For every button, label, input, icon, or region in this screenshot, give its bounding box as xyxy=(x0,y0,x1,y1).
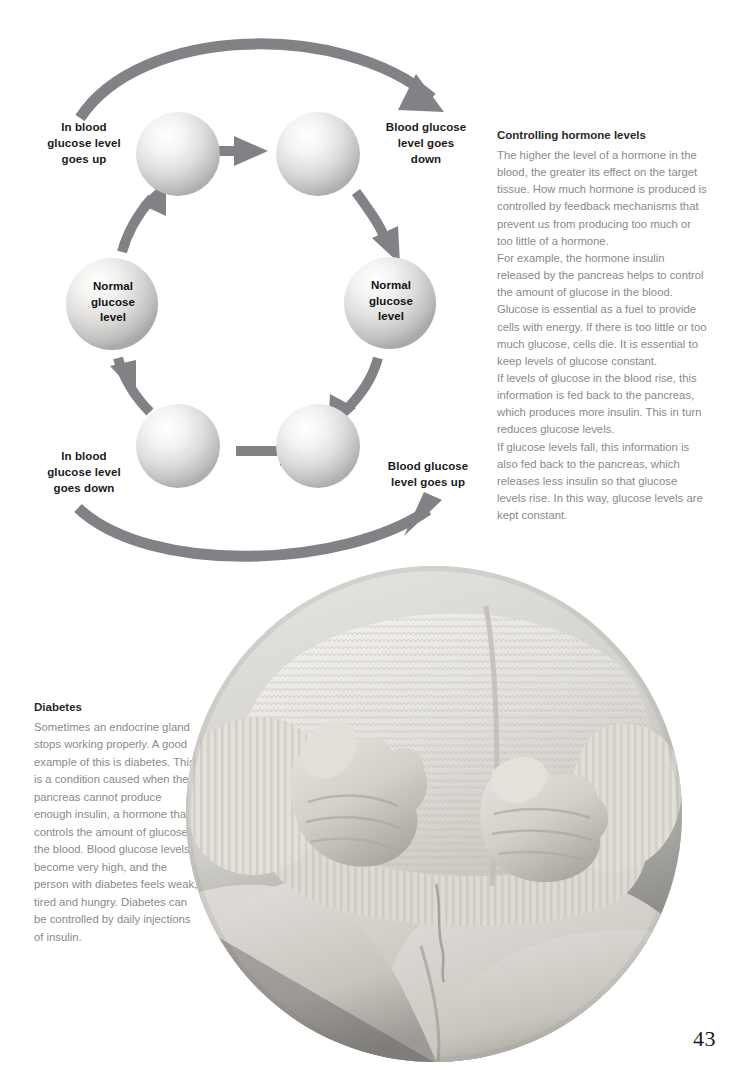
label-line: goes up xyxy=(20,152,148,168)
outer-arrow-bottom xyxy=(78,492,442,556)
label-line: glucose level xyxy=(20,136,148,152)
sphere-label-right-normal: Normal glucose level xyxy=(348,278,434,325)
label-line: glucose level xyxy=(20,465,148,481)
sphere-label-line: glucose xyxy=(348,294,434,310)
label-line: Blood glucose xyxy=(372,459,484,475)
inner-arrow-left-up xyxy=(110,358,150,412)
page-number: 43 xyxy=(693,1026,716,1052)
sphere-top-left xyxy=(136,112,220,196)
inner-arrow-right-down xyxy=(356,192,400,264)
sphere-label-line: Normal xyxy=(348,278,434,294)
label-line: In blood xyxy=(20,120,148,136)
sphere-label-line: Normal xyxy=(70,279,156,295)
label-blood-glucose-down: Blood glucose level goes down xyxy=(370,120,482,168)
label-line: level goes up xyxy=(372,475,484,491)
sphere-top-right xyxy=(276,112,360,196)
label-line: goes down xyxy=(20,481,148,497)
label-blood-glucose-up: Blood glucose level goes up xyxy=(372,459,484,491)
label-line: Blood glucose xyxy=(370,120,482,136)
diabetes-photo xyxy=(186,566,682,1062)
controlling-hormone-levels-section: Controlling hormone levels The higher th… xyxy=(497,128,709,524)
sphere-label-line: level xyxy=(348,309,434,325)
diabetes-section-heading: Diabetes xyxy=(34,700,202,715)
label-in-blood-glucose-up: In blood glucose level goes up xyxy=(20,120,148,168)
photo-illustration xyxy=(186,566,682,1062)
blood-glucose-cycle-diagram: Normal glucose level Normal glucose leve… xyxy=(0,0,490,570)
label-line: down xyxy=(370,152,482,168)
sphere-label-line: glucose xyxy=(70,295,156,311)
hormone-section-heading: Controlling hormone levels xyxy=(497,128,709,143)
sphere-bottom-left xyxy=(136,404,220,488)
sphere-label-line: level xyxy=(70,310,156,326)
label-line: level goes xyxy=(370,136,482,152)
outer-arrow-top xyxy=(80,44,444,118)
hormone-paragraph: If glucose levels fall, this information… xyxy=(497,439,709,525)
label-line: In blood xyxy=(20,449,148,465)
sphere-bottom-right xyxy=(276,404,360,488)
hormone-paragraph: The higher the level of a hormone in the… xyxy=(497,147,709,250)
diabetes-paragraph: Sometimes an endocrine gland stops worki… xyxy=(34,719,202,947)
sphere-label-left-normal: Normal glucose level xyxy=(70,279,156,326)
hormone-paragraph: If levels of glucose in the blood rise, … xyxy=(497,370,709,439)
hormone-paragraph: For example, the hormone insulin release… xyxy=(497,250,709,370)
diabetes-section: Diabetes Sometimes an endocrine gland st… xyxy=(34,700,202,946)
label-in-blood-glucose-down: In blood glucose level goes down xyxy=(20,449,148,497)
photo-circle-mask xyxy=(186,566,682,1062)
